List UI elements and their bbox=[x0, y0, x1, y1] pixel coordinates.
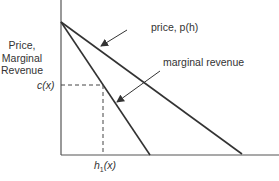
cost-level-label: c(x) bbox=[37, 79, 55, 91]
y-axis-label-line-1: Price, bbox=[0, 39, 44, 52]
marginal-revenue-line bbox=[61, 22, 150, 155]
price-arrow-icon bbox=[101, 30, 127, 46]
monopoly-pricing-diagram: Price, Marginal Revenue price, p(h) marg… bbox=[0, 0, 279, 181]
quantity-label: h1(x) bbox=[94, 159, 116, 173]
y-axis-label: Price, Marginal Revenue bbox=[0, 39, 44, 77]
marginal-revenue-arrow-icon bbox=[117, 71, 160, 102]
price-curve-label: price, p(h) bbox=[151, 21, 198, 33]
y-axis-label-line-3: Revenue bbox=[0, 64, 44, 77]
quantity-label-argument: (x) bbox=[104, 159, 116, 171]
y-axis-label-line-2: Marginal bbox=[0, 52, 44, 65]
price-line bbox=[61, 22, 242, 154]
marginal-revenue-curve-label: marginal revenue bbox=[163, 56, 244, 68]
